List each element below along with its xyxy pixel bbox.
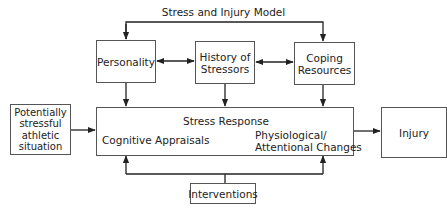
potentially-stressful-situation-box: Potentially stressful athletic situation (10, 104, 71, 155)
injury-box: Injury (381, 107, 447, 158)
personality-box: Personality (96, 40, 156, 83)
situation-label-line3: athletic (22, 130, 60, 142)
situation-label-line2: stressful (19, 118, 61, 130)
stress-response-title: Stress Response (97, 115, 355, 127)
history-label-line2: Stressors (201, 63, 249, 75)
coping-label-line2: Resources (298, 64, 352, 76)
diagram-title: Stress and Injury Model (0, 6, 447, 18)
physiological-label-line2: Attentional Changes (255, 141, 362, 153)
history-label-line1: History of (200, 51, 251, 63)
interventions-box: Interventions (190, 183, 256, 204)
physiological-label-line1: Physiological/ (255, 129, 327, 141)
coping-label-line1: Coping (306, 52, 343, 64)
situation-label-line4: situation (19, 141, 63, 153)
cognitive-appraisals-label: Cognitive Appraisals (102, 134, 210, 146)
injury-label: Injury (399, 127, 429, 139)
interventions-label: Interventions (188, 188, 258, 200)
coping-resources-box: Coping Resources (294, 42, 355, 85)
stress-response-box: Stress Response Cognitive Appraisals Phy… (96, 107, 354, 156)
history-of-stressors-box: History of Stressors (195, 41, 255, 84)
situation-label-line1: Potentially (14, 107, 67, 119)
personality-label: Personality (97, 56, 155, 68)
